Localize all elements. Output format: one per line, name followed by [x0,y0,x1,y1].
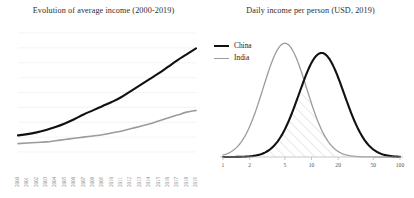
overlap-hatched-region [223,43,400,157]
panel-evolution-of-average-income: Evolution of average income (2000-2019) … [0,0,207,198]
left-series-line-india [18,110,196,143]
right-density-chart-plot [207,0,414,198]
right-x-axis-tickmarks [223,157,400,160]
two-panel-figure: Evolution of average income (2000-2019) … [0,0,414,198]
panel-daily-income-per-person: Daily income per person (USD, 2019) Chin… [207,0,414,198]
left-line-chart-plot [0,0,207,198]
